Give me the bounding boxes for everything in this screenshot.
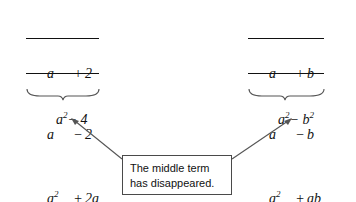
multiplier-value-left: 2	[85, 127, 92, 142]
answer-term-left: 4	[80, 112, 87, 127]
divider-line-multiplier-right	[248, 38, 324, 39]
divider-line-sum-right	[248, 73, 324, 74]
multiplier-lead-left: a	[47, 127, 71, 142]
partial-product-1-row-left: a2+2a	[26, 176, 128, 193]
multiplicand-row-left: a+2	[26, 51, 128, 67]
exponent: 2	[276, 189, 281, 199]
answer-operator-right: −	[290, 112, 299, 127]
partial-1-operator-right: +	[293, 191, 307, 202]
partial-1-value-left: 2a	[85, 191, 99, 202]
figure-canvas: a+2 a−2 a2+2a −2a−4 a2+0−4 a2− 4 a+b a−b…	[0, 0, 356, 202]
multiplier-operator-right: −	[293, 127, 307, 142]
partial-1-lead-left: a2	[47, 191, 71, 202]
divider-line-multiplier-left	[26, 38, 99, 39]
worked-example-left: a+2 a−2 a2+2a −2a−4 a2+0−4	[26, 6, 128, 202]
partial-1-lead-right: a2	[269, 191, 293, 202]
multiplier-value-right: b	[307, 127, 314, 142]
callout-box: The middle term has disappeared.	[122, 155, 232, 195]
multiplier-lead-right: a	[269, 127, 293, 142]
multiplier-operator-left: −	[71, 127, 85, 142]
partial-1-value-right: ab	[307, 191, 321, 202]
callout-line-2: has disappeared.	[130, 176, 231, 191]
answer-left: a2− 4	[56, 112, 87, 128]
partial-1-operator-left: +	[71, 191, 85, 202]
callout-line-1: The middle term	[130, 161, 231, 176]
divider-line-sum-left	[26, 73, 99, 74]
multiplicand-row-right: a+b	[248, 51, 355, 67]
answer-operator-left: −	[68, 112, 77, 127]
answer-right: a2− b2	[278, 112, 314, 128]
exponent: 2	[54, 189, 59, 199]
exponent: 2	[309, 110, 314, 120]
partial-product-1-row-right: a2+ab	[248, 176, 355, 193]
worked-example-right: a+b a−b a2+ab −ab−b2 a2+0−b2	[248, 6, 355, 202]
